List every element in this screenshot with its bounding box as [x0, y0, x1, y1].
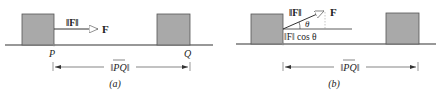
work-diagram: ‖F‖ F P Q ‖PQ‖ (a) ‖F‖ F θ ‖F‖ cos θ ‖PQ…: [0, 0, 446, 95]
block-end: [157, 14, 190, 45]
block-start: [251, 14, 283, 44]
force-magnitude-label: ‖F‖: [66, 17, 79, 28]
caption-b: (b): [328, 78, 340, 90]
angle-label: θ: [305, 19, 310, 29]
component-label: ‖F‖ cos θ: [284, 32, 317, 42]
force-vector-label: F: [330, 6, 337, 18]
block-start: [22, 14, 54, 45]
displacement-label: ‖PQ‖: [341, 62, 360, 73]
point-p-marker: [53, 44, 56, 47]
panel-b: ‖F‖ F θ ‖F‖ cos θ ‖PQ‖ (b): [236, 6, 436, 90]
force-vector-label: F: [102, 23, 109, 35]
panel-a: ‖F‖ F P Q ‖PQ‖ (a): [5, 14, 213, 90]
force-magnitude-label: ‖F‖: [289, 7, 302, 18]
point-q-label: Q: [184, 48, 192, 59]
caption-a: (a): [109, 78, 121, 90]
angle-arc: [299, 22, 300, 29]
point-p-marker: [282, 43, 285, 46]
point-p-label: P: [48, 48, 55, 59]
displacement-label: ‖PQ‖: [111, 62, 130, 73]
block-end: [386, 13, 419, 44]
